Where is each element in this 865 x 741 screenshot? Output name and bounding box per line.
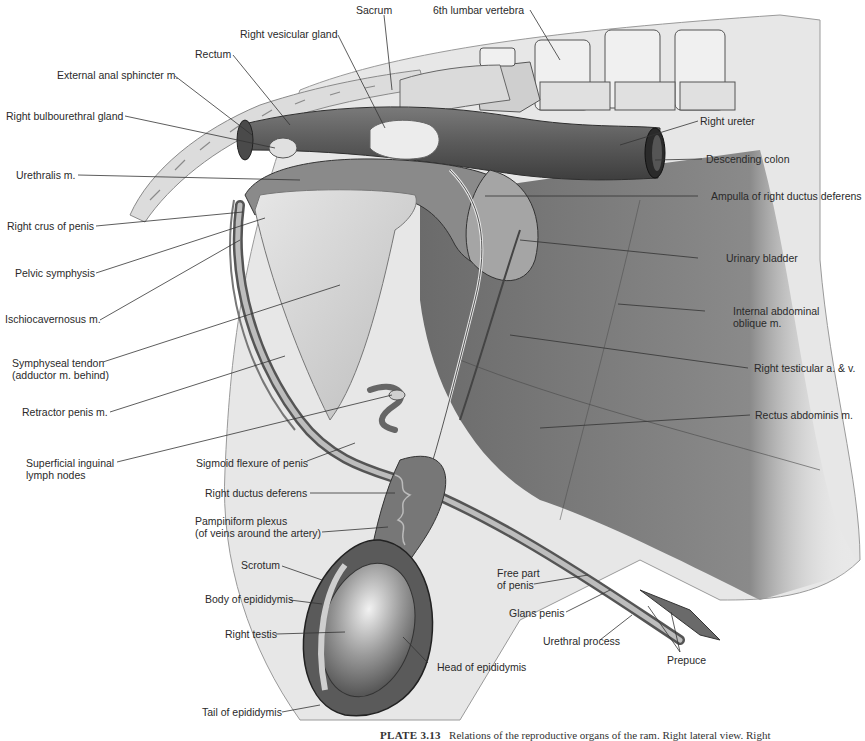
label-line-2: (adductor m. behind) bbox=[12, 369, 109, 381]
label-pelvic-symphysis: Pelvic symphysis bbox=[15, 267, 95, 279]
anatomy-illustration bbox=[0, 0, 865, 741]
label-line-2: lymph nodes bbox=[26, 469, 114, 481]
label-line-1: Symphyseal tendon bbox=[12, 357, 109, 369]
label-urethral-process: Urethral process bbox=[543, 635, 620, 647]
prepuce bbox=[640, 590, 720, 640]
label-pampiniform-plexus: Pampiniform plexus (of veins around the … bbox=[195, 515, 321, 539]
label-line-1: Free part bbox=[497, 567, 540, 579]
label-retractor-penis: Retractor penis m. bbox=[22, 406, 108, 418]
label-symphyseal-tendon: Symphyseal tendon (adductor m. behind) bbox=[12, 357, 109, 381]
label-line-1: Pampiniform plexus bbox=[195, 515, 321, 527]
label-prepuce: Prepuce bbox=[667, 654, 706, 666]
caption-plate-number: PLATE 3.13 bbox=[380, 729, 441, 741]
label-glans-penis: Glans penis bbox=[509, 607, 564, 619]
label-right-vesicular-gland: Right vesicular gland bbox=[240, 28, 337, 40]
label-sigmoid-flexure: Sigmoid flexure of penis bbox=[196, 457, 308, 469]
label-right-ductus-deferens: Right ductus deferens bbox=[205, 487, 307, 499]
label-ampulla: Ampulla of right ductus deferens bbox=[711, 190, 862, 202]
vesicular-gland bbox=[370, 120, 439, 159]
figure-caption: PLATE 3.13 Relations of the reproductive… bbox=[380, 729, 770, 741]
label-urinary-bladder: Urinary bladder bbox=[726, 252, 798, 264]
label-free-part-of-penis: Free part of penis bbox=[497, 567, 540, 591]
label-scrotum: Scrotum bbox=[241, 559, 280, 571]
label-line-2: of penis bbox=[497, 579, 540, 591]
label-line-2: oblique m. bbox=[733, 317, 819, 329]
label-line-1: Internal abdominal bbox=[733, 305, 819, 317]
label-right-ureter: Right ureter bbox=[700, 115, 755, 127]
label-right-crus-of-penis: Right crus of penis bbox=[7, 220, 94, 232]
label-line-2: (of veins around the artery) bbox=[195, 527, 321, 539]
label-6th-lumbar-vertebra: 6th lumbar vertebra bbox=[433, 4, 524, 16]
label-descending-colon: Descending colon bbox=[706, 153, 789, 165]
label-rectus-abdominis: Rectus abdominis m. bbox=[755, 409, 853, 421]
label-rectum: Rectum bbox=[195, 48, 231, 60]
label-ischiocavernosus: Ischiocavernosus m. bbox=[5, 313, 101, 325]
label-line-1: Superficial inguinal bbox=[26, 457, 114, 469]
label-right-testicular-av: Right testicular a. & v. bbox=[754, 362, 855, 374]
caption-text: Relations of the reproductive organs of … bbox=[449, 729, 770, 741]
label-right-bulbourethral-gland: Right bulbourethral gland bbox=[6, 110, 123, 122]
label-external-anal-sphincter: External anal sphincter m. bbox=[57, 69, 178, 81]
label-sacrum: Sacrum bbox=[356, 4, 392, 16]
label-body-of-epididymis: Body of epididymis bbox=[205, 593, 293, 605]
label-urethralis: Urethralis m. bbox=[16, 169, 76, 181]
label-tail-of-epididymis: Tail of epididymis bbox=[202, 706, 282, 718]
label-head-of-epididymis: Head of epididymis bbox=[437, 661, 526, 673]
label-internal-abdominal-oblique: Internal abdominal oblique m. bbox=[733, 305, 819, 329]
label-superficial-inguinal-lymph-nodes: Superficial inguinal lymph nodes bbox=[26, 457, 114, 481]
label-right-testis: Right testis bbox=[225, 628, 277, 640]
